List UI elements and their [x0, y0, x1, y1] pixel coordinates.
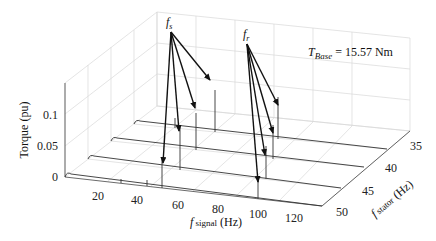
- svg-text:0: 0: [52, 170, 58, 184]
- svg-text:50: 50: [336, 205, 348, 219]
- svg-text:35: 35: [410, 139, 422, 153]
- traces: [65, 90, 387, 206]
- svg-text:0.1: 0.1: [43, 108, 58, 122]
- fs-label: fs: [166, 15, 172, 31]
- z-axis-label: Torque (pu): [17, 102, 31, 159]
- svg-text:40: 40: [131, 193, 143, 207]
- svg-text:60: 60: [172, 198, 184, 212]
- arrows-fr: [247, 44, 278, 182]
- x-axis-label: f signal (Hz): [190, 215, 242, 229]
- base-torque-annotation: TBase = 15.57 Nm: [308, 45, 394, 61]
- y-axis-label: f stator (Hz): [368, 177, 416, 220]
- back-wall-grid: [157, 12, 410, 131]
- svg-text:45: 45: [362, 184, 374, 198]
- svg-text:40: 40: [385, 161, 397, 175]
- fr-label: fr: [243, 27, 250, 43]
- waterfall-chart: fs fr TBase = 15.57 Nm 0 0.05 0.1 Torque…: [0, 0, 436, 241]
- svg-text:120: 120: [285, 211, 303, 225]
- axes: [65, 83, 410, 206]
- svg-text:100: 100: [249, 207, 267, 221]
- arrows-fs: [163, 32, 210, 163]
- z-tick-labels: 0 0.05 0.1: [37, 108, 58, 184]
- svg-text:0.05: 0.05: [37, 139, 58, 153]
- svg-text:80: 80: [212, 202, 224, 216]
- svg-text:20: 20: [92, 189, 104, 203]
